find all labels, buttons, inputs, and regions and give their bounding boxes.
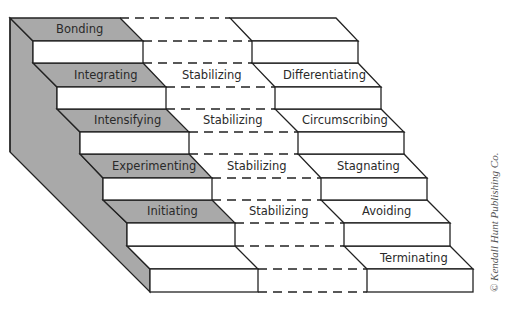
label-intensifying: Intensifying [94, 113, 161, 127]
label-experimenting: Experimenting [112, 159, 196, 173]
label-differentiating: Differentiating [283, 68, 366, 82]
label-terminating: Terminating [379, 251, 448, 265]
staircase-diagram: Bonding Integrating Intensifying Experim… [0, 0, 515, 313]
staircase-svg: Bonding Integrating Intensifying Experim… [0, 0, 515, 313]
tread-bottom [127, 246, 258, 269]
label-stabilizing-3: Stabilizing [227, 159, 287, 173]
label-stabilizing-4: Stabilizing [249, 204, 309, 218]
label-bonding: Bonding [56, 22, 103, 36]
label-avoiding: Avoiding [362, 204, 411, 218]
label-circumscribing: Circumscribing [302, 113, 388, 127]
label-initiating: Initiating [147, 204, 198, 218]
label-integrating: Integrating [74, 68, 138, 82]
tread-right-top [230, 18, 358, 41]
label-stabilizing-2: Stabilizing [203, 113, 263, 127]
copyright-text: © Kendall Hunt Publishing Co. [488, 153, 500, 292]
label-stabilizing-1: Stabilizing [182, 68, 242, 82]
label-stagnating: Stagnating [337, 159, 400, 173]
